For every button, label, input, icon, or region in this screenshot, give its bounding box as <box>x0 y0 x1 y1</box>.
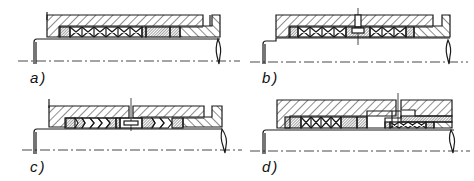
panel-a <box>18 12 240 64</box>
packing-rings-a <box>70 27 142 37</box>
panel-d <box>250 93 470 154</box>
panel-b <box>250 8 468 64</box>
panel-label-a: a) <box>30 69 47 86</box>
panel-label-b: b) <box>262 69 279 86</box>
panel-c <box>22 98 242 154</box>
panel-label-c: c) <box>30 158 47 175</box>
seal-diagram <box>0 0 474 181</box>
panel-label-d: d) <box>262 158 279 175</box>
